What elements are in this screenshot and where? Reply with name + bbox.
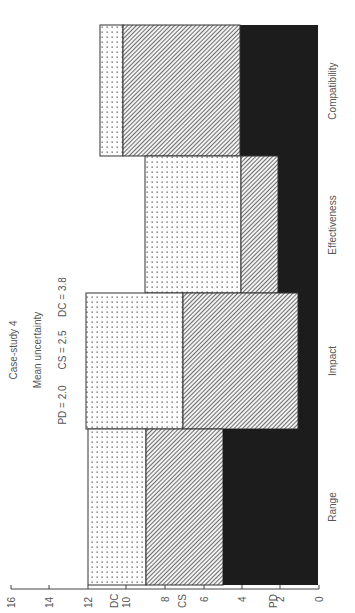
axis-label-dc: DC (109, 594, 120, 608)
title-block: Case-study 4 Mean uncertainty PD = 2.0 C… (8, 277, 68, 425)
bar-effectiveness (145, 156, 278, 293)
category-label-impact: Impact (327, 346, 338, 376)
axis-label-cs: CS (177, 594, 188, 608)
bar-range (88, 429, 318, 585)
tick-12: 12 (83, 596, 94, 608)
axis-label-pd: PD (268, 594, 279, 608)
bar-impact (86, 293, 298, 429)
tick-4: 4 (237, 596, 248, 602)
tick-0: 0 (314, 596, 325, 602)
segment-cs-compatibility (123, 25, 240, 156)
tick-6: 6 (199, 596, 210, 602)
tick-10: 10 (121, 596, 132, 608)
annotation-dc: DC = 3.8 (57, 277, 68, 317)
tick-8: 8 (160, 596, 171, 602)
category-label-compatibility: Compatibility (327, 62, 338, 119)
tick-16: 16 (6, 596, 17, 608)
category-label-effectiveness: Effectiveness (327, 195, 338, 254)
chart-title: Case-study 4 (8, 320, 19, 379)
segment-dc-impact (86, 293, 183, 429)
value-axis: 16 14 12 10 8 6 4 2 0 DC CS PD (6, 585, 325, 608)
segment-cs-effectiveness (241, 156, 278, 293)
category-labels: Range Impact Effectiveness Compatibility (327, 62, 338, 521)
segment-cs-impact (183, 293, 298, 429)
segment-dc-range (88, 429, 146, 585)
segment-dc-effectiveness (145, 156, 241, 293)
chart-subtitle: Mean uncertainty (32, 312, 43, 389)
segment-dc-compatibility (100, 25, 123, 156)
segment-pd-range (223, 429, 318, 585)
annotation-pd: PD = 2.0 (57, 385, 68, 425)
tick-14: 14 (44, 596, 55, 608)
segment-cs-range (146, 429, 223, 585)
category-label-range: Range (327, 492, 338, 522)
bar-compatibility (100, 25, 240, 156)
annotation-cs: CS = 2.5 (57, 330, 68, 370)
stacked-bar-chart: 16 14 12 10 8 6 4 2 0 DC CS PD Range Imp… (0, 0, 355, 613)
